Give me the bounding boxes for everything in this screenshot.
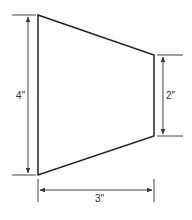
left-height-label: 4" (16, 90, 26, 101)
right-height-label: 2" (166, 90, 176, 101)
trapezoid-diagram: 4" 2" 3" (0, 0, 192, 220)
bottom-width-label: 3" (95, 193, 105, 204)
left-height-dimension: 4" (12, 15, 36, 175)
trapezoid-shape (38, 15, 154, 175)
right-height-dimension: 2" (157, 55, 183, 136)
bottom-width-dimension: 3" (38, 179, 154, 204)
